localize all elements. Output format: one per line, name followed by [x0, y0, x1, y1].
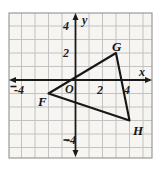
- vertex-label-f: F: [38, 95, 47, 108]
- x-tick-label-4: 4: [124, 84, 130, 96]
- origin-label: O: [65, 83, 74, 95]
- coordinate-grid-figure: 4 2 -4 -4 2 4 O y x F G H: [0, 0, 160, 172]
- x-tick-label-2: 2: [97, 84, 103, 96]
- plot-background: [9, 13, 152, 158]
- y-axis-label: y: [82, 14, 87, 26]
- y-tick-label-2: 2: [63, 47, 69, 59]
- y-tick-label-neg4: -4: [66, 134, 76, 146]
- vertex-label-g: G: [112, 40, 121, 53]
- y-tick-label-4: 4: [63, 20, 69, 32]
- x-axis-label: x: [139, 66, 145, 78]
- vertex-label-h: H: [133, 124, 143, 137]
- x-tick-label-neg4: -4: [14, 84, 24, 96]
- graph-canvas: [0, 0, 160, 172]
